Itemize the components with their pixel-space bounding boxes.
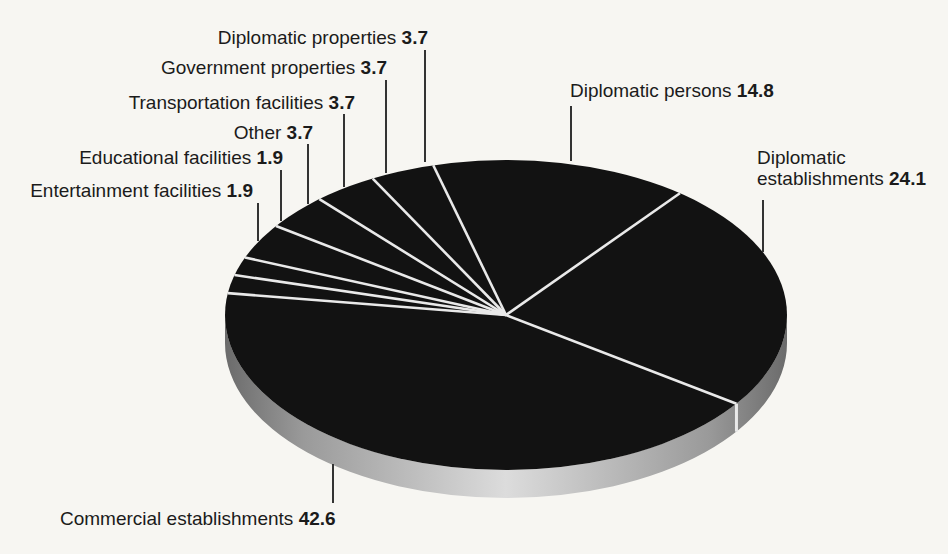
slice-value: 14.8 [737,80,774,101]
slice-label-transportation-facilities: Transportation facilities 3.7 [129,92,355,113]
slice-label-other: Other 3.7 [234,122,313,143]
pie-svg [0,0,948,554]
slice-value: 42.6 [299,508,336,529]
leader-line-other [307,144,309,204]
leader-line-transportation-facilities [343,114,345,187]
pie-chart-figure: Diplomatic properties 3.7 Government pro… [0,0,948,554]
slice-value: 3.7 [287,122,313,143]
slice-value: 3.7 [329,92,355,113]
slice-label-text: Transportation facilities [129,92,324,113]
leader-line-diplomatic-properties [424,50,426,162]
slice-label-educational-facilities: Educational facilities 1.9 [79,147,283,168]
leader-line-educational-facilities [280,170,282,221]
slice-label-text: Diplomatic establishments [757,147,884,189]
slice-label-text: Educational facilities [79,147,251,168]
slice-value: 1.9 [257,147,283,168]
slice-label-entertainment-facilities: Entertainment facilities 1.9 [30,180,253,201]
slice-label-diplomatic-properties: Diplomatic properties 3.7 [218,27,428,48]
slice-label-text: Government properties [161,57,355,78]
slice-label-diplomatic-establishments: Diplomatic establishments 24.1 [757,147,948,189]
leader-line-government-properties [385,80,387,173]
slice-label-text: Diplomatic persons [570,80,732,101]
slice-label-text: Commercial establishments [60,508,293,529]
slice-label-government-properties: Government properties 3.7 [161,57,387,78]
slice-label-commercial-establishments: Commercial establishments 42.6 [60,508,336,529]
leader-line-commercial-establishments [332,464,334,503]
slice-label-diplomatic-persons: Diplomatic persons 14.8 [570,80,774,101]
leader-line-diplomatic-establishments [762,200,764,252]
leader-line-diplomatic-persons [570,106,572,161]
slice-label-text: Entertainment facilities [30,180,221,201]
slice-value: 24.1 [889,168,926,189]
leader-line-entertainment-facilities [257,203,259,241]
slice-value: 1.9 [227,180,253,201]
slice-value: 3.7 [402,27,428,48]
slice-label-text: Diplomatic properties [218,27,396,48]
slice-label-text: Other [234,122,282,143]
slice-value: 3.7 [361,57,387,78]
